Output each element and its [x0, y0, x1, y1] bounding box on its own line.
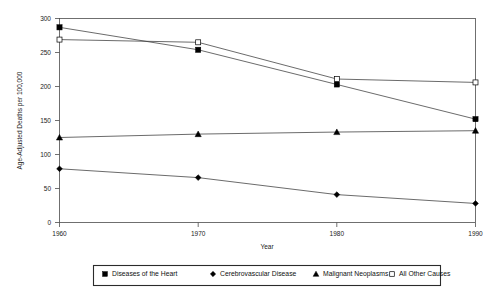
- data-point-marker: [196, 40, 201, 45]
- x-tick-label-1980: 1980: [330, 230, 345, 237]
- legend-marker-open-square-icon: [390, 272, 395, 277]
- data-point-marker: [57, 25, 62, 30]
- legend-item-3[interactable]: Malignant Neoplasms: [313, 270, 389, 278]
- y-tick-label-300: 300: [40, 15, 51, 22]
- y-tick-label-50: 50: [44, 185, 52, 192]
- y-tick-label-0: 0: [47, 219, 51, 226]
- x-tick-label-1990: 1990: [468, 230, 483, 237]
- legend-item-label: Diseases of the Heart: [112, 270, 177, 277]
- legend-item-label: Malignant Neoplasms: [323, 270, 389, 278]
- data-point-marker: [334, 77, 339, 82]
- y-tick-label-250: 250: [40, 49, 51, 56]
- legend-item-label: Cerebrovascular Disease: [220, 270, 297, 277]
- legend-items: Diseases of the HeartCerebrovascular Dis…: [103, 270, 451, 278]
- data-point-marker: [57, 37, 62, 42]
- legend-item-4[interactable]: All Other Causes: [390, 270, 451, 277]
- legend-item-1[interactable]: Diseases of the Heart: [103, 270, 178, 277]
- data-point-marker: [334, 82, 339, 87]
- y-tick-label-200: 200: [40, 83, 51, 90]
- data-point-marker: [196, 47, 201, 52]
- data-point-marker: [473, 80, 478, 85]
- y-tick-label-100: 100: [40, 151, 51, 158]
- data-point-marker: [473, 117, 478, 122]
- x-tick-label-1970: 1970: [191, 230, 206, 237]
- chart-background: [0, 0, 497, 300]
- y-axis-title: Age-Adjusted Deaths per 100,000: [16, 71, 24, 169]
- y-tick-label-150: 150: [40, 117, 51, 124]
- legend-item-2[interactable]: Cerebrovascular Disease: [210, 270, 296, 277]
- chart-figure: 300 250 200 150 100 50 0 1960 1970 1980 …: [0, 0, 497, 300]
- x-tick-label-1960: 1960: [52, 230, 67, 237]
- legend-marker-filled-square-icon: [103, 272, 108, 277]
- x-axis-title: Year: [260, 243, 274, 250]
- line-chart: 300 250 200 150 100 50 0 1960 1970 1980 …: [0, 0, 497, 300]
- legend-item-label: All Other Causes: [399, 270, 451, 277]
